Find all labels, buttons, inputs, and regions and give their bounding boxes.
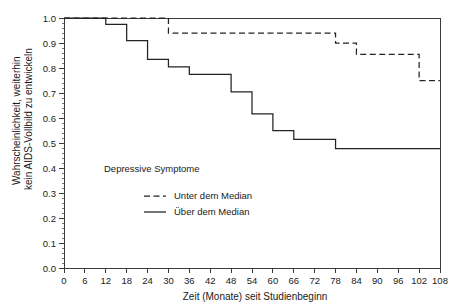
x-tick-label: 96 (393, 275, 404, 286)
legend-label-unter-dem-median: Unter dem Median (174, 190, 252, 201)
x-tick-label: 48 (226, 275, 237, 286)
x-axis-tick-labels: 06121824303642485460667278849096102108 (61, 275, 448, 286)
series-line-unter-dem-median (64, 18, 440, 81)
y-tick-label: 0.3 (43, 188, 56, 199)
x-tick-label: 54 (247, 275, 258, 286)
x-tick-label: 78 (330, 275, 341, 286)
y-tick-label: 0.7 (43, 88, 56, 99)
x-tick-label: 60 (268, 275, 279, 286)
legend-label-ueber-dem-median: Über dem Median (174, 206, 250, 217)
y-tick-label: 0.8 (43, 63, 56, 74)
y-axis-title-line-2: kein AIDS-Vollbild zu entwickeln (23, 48, 34, 190)
x-tick-label: 18 (121, 275, 132, 286)
y-axis-tick-marks (59, 18, 64, 268)
y-tick-label: 0.4 (43, 163, 56, 174)
kaplan-meier-chart: 0.00.10.20.30.40.50.60.70.80.91.0 061218… (0, 0, 454, 306)
x-axis-title: Zeit (Monate) seit Studienbeginn (183, 291, 328, 302)
x-tick-label: 42 (205, 275, 216, 286)
y-tick-label: 0.0 (43, 263, 56, 274)
x-tick-label: 72 (309, 275, 320, 286)
x-axis-tick-marks (64, 268, 440, 273)
x-tick-label: 12 (100, 275, 111, 286)
y-tick-label: 0.9 (43, 38, 56, 49)
y-axis-tick-labels: 0.00.10.20.30.40.50.60.70.80.91.0 (43, 13, 56, 274)
legend: Depressive Symptome Unter dem Median Übe… (104, 163, 252, 217)
x-tick-label: 102 (411, 275, 427, 286)
y-tick-label: 0.1 (43, 238, 56, 249)
x-tick-label: 84 (351, 275, 362, 286)
x-tick-label: 108 (432, 275, 448, 286)
y-axis-title-line-1: Wahrscheinlichkeit, weiterhin (11, 56, 22, 185)
x-tick-label: 66 (288, 275, 299, 286)
legend-title: Depressive Symptome (104, 163, 200, 174)
y-tick-label: 1.0 (43, 13, 56, 24)
y-tick-label: 0.5 (43, 138, 56, 149)
x-tick-label: 6 (82, 275, 87, 286)
x-tick-label: 36 (184, 275, 195, 286)
x-tick-label: 0 (61, 275, 66, 286)
y-tick-label: 0.2 (43, 213, 56, 224)
x-tick-label: 90 (372, 275, 383, 286)
x-tick-label: 30 (163, 275, 174, 286)
x-tick-label: 24 (142, 275, 153, 286)
y-tick-label: 0.6 (43, 113, 56, 124)
figure-container: 0.00.10.20.30.40.50.60.70.80.91.0 061218… (0, 0, 454, 306)
series-line-ueber-dem-median (64, 18, 440, 149)
